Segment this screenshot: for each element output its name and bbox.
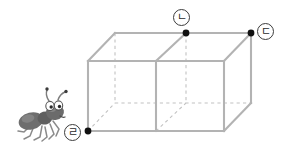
ant-mouth	[60, 116, 65, 117]
edge-right-bottom-depth	[224, 103, 251, 131]
figure-svg	[0, 0, 287, 156]
ant-illustration	[17, 87, 68, 141]
hidden-edge-bottom-mid-depth	[156, 103, 186, 131]
solid-edges-group	[88, 33, 251, 131]
vertex-label-a: ㄹ	[64, 124, 81, 141]
edge-top-left-depth	[88, 33, 115, 61]
vertex-dot-b	[183, 30, 190, 37]
vertex-dot-a	[85, 128, 92, 135]
ant-antenna-tip-left	[45, 87, 48, 90]
ant-leg-front-1	[49, 124, 54, 139]
edge-top-right-depth	[224, 33, 251, 61]
ant-eye-right-pupil	[58, 105, 61, 108]
vertex-label-b: ㄴ	[173, 9, 190, 26]
ant-antenna-left	[46, 90, 49, 101]
ant-eye-left-pupil	[50, 105, 53, 108]
vertex-label-c: ㄷ	[257, 23, 274, 40]
ant-antenna-tip-right	[64, 90, 67, 93]
edge-top-mid-depth	[156, 33, 186, 61]
vertex-dots-group	[85, 30, 255, 135]
hidden-edge-bottom-left-depth	[88, 103, 115, 131]
ant-leg-mid-2	[42, 127, 47, 141]
ant-antennae	[46, 90, 65, 101]
vertex-dot-c	[248, 30, 255, 37]
ant-antenna-right	[58, 92, 65, 100]
diagram-canvas: ㄹ ㄴ ㄷ	[0, 0, 287, 156]
